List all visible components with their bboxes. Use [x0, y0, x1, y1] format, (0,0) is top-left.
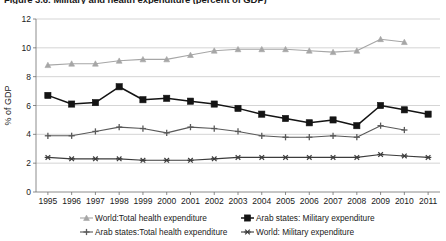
x-axis-labels: 1995199619971998199920002001200220032004… [38, 196, 437, 206]
legend-item-label: Arab states: Military expenditure [256, 213, 375, 223]
data-point-marker [330, 117, 336, 123]
data-point-marker [68, 157, 74, 162]
x-tick-label: 1998 [110, 196, 129, 206]
y-tick-label: 6 [26, 101, 31, 111]
data-point-marker [425, 155, 431, 160]
data-point-marker [92, 128, 98, 134]
y-tick-label: 8 [26, 72, 31, 82]
x-tick-label: 2005 [276, 196, 295, 206]
x-tick-label: 2003 [229, 196, 248, 206]
legend: World:Total health expenditureArab state… [80, 213, 375, 237]
data-point-marker [45, 155, 51, 160]
x-tick-label: 2002 [205, 196, 224, 206]
data-point-marker [306, 134, 312, 140]
data-point-marker [211, 125, 217, 131]
x-tick-label: 2004 [252, 196, 271, 206]
legend-item-0[interactable]: World:Total health expenditure [80, 213, 207, 223]
y-tick-label: 12 [22, 14, 32, 24]
data-point-marker [164, 95, 170, 101]
x-tick-label: 1996 [62, 196, 81, 206]
y-axis-labels: 024681012 [22, 14, 32, 197]
data-point-marker [306, 155, 312, 160]
x-tick-label: 2006 [300, 196, 319, 206]
data-point-marker [330, 133, 336, 139]
x-tick-label: 2009 [371, 196, 390, 206]
series-line [48, 126, 404, 138]
x-tick-label: 2008 [347, 196, 366, 206]
x-tick-label: 2000 [157, 196, 176, 206]
data-point-marker [187, 158, 193, 163]
data-point-marker [69, 101, 75, 107]
y-tick-label: 4 [26, 129, 31, 139]
legend-item-label: World: Military expenditure [256, 227, 354, 237]
data-point-marker [354, 155, 360, 160]
data-point-marker [425, 111, 431, 117]
legend-item-3[interactable]: World: Military expenditure [241, 227, 354, 237]
data-point-marker [140, 97, 146, 103]
data-point-marker [116, 124, 122, 130]
x-tick-label: 2010 [395, 196, 414, 206]
data-point-marker [45, 133, 51, 139]
y-tick-label: 10 [22, 43, 32, 53]
data-point-marker [401, 107, 407, 113]
data-point-marker [187, 124, 193, 130]
data-point-marker [354, 134, 360, 140]
series-group [45, 36, 432, 162]
y-axis-title-text: % of GDP [3, 85, 13, 125]
data-point-marker [306, 120, 312, 126]
data-point-marker [45, 92, 51, 98]
data-point-marker [354, 123, 360, 129]
data-point-marker [244, 230, 250, 235]
series-0 [45, 36, 407, 67]
data-point-marker [235, 105, 241, 111]
x-tick-label: 2001 [181, 196, 200, 206]
chart-canvas: 024681012 199519961997199819992000200120… [0, 0, 446, 241]
x-tick-label: 1997 [86, 196, 105, 206]
data-point-marker [116, 157, 122, 162]
data-point-marker [282, 134, 288, 140]
legend-item-label: Arab states:Total health expenditure [95, 227, 228, 237]
data-point-marker [377, 123, 383, 129]
y-axis-title: % of GDP [3, 85, 13, 125]
data-point-marker [211, 101, 217, 107]
legend-item-label: World:Total health expenditure [95, 213, 207, 223]
legend-item-1[interactable]: Arab states: Military expenditure [241, 213, 375, 223]
data-point-marker [282, 115, 288, 121]
data-point-marker [235, 155, 241, 160]
data-point-marker [140, 158, 146, 163]
data-point-marker [259, 111, 265, 117]
data-point-marker [92, 100, 98, 106]
data-point-marker [235, 128, 241, 134]
data-point-marker [92, 157, 98, 162]
data-point-marker [377, 102, 383, 108]
legend-item-2[interactable]: Arab states:Total health expenditure [80, 227, 228, 237]
data-point-marker [164, 158, 170, 163]
y-tick-label: 0 [26, 187, 31, 197]
figure-container: Figure 3.6: Military and health expendit… [0, 0, 446, 241]
data-point-marker [377, 152, 383, 157]
series-line [48, 39, 404, 65]
data-point-marker [69, 133, 75, 139]
data-point-marker [259, 133, 265, 139]
data-point-marker [211, 157, 217, 162]
data-point-marker [140, 125, 146, 131]
x-tick-label: 2011 [419, 196, 438, 206]
data-point-marker [164, 130, 170, 136]
data-point-marker [83, 229, 89, 235]
data-point-marker [282, 155, 288, 160]
data-point-marker [401, 154, 407, 159]
data-point-marker [330, 155, 336, 160]
data-point-marker [187, 98, 193, 104]
y-tick-label: 2 [26, 158, 31, 168]
x-tick-label: 2007 [324, 196, 343, 206]
data-point-marker [259, 155, 265, 160]
data-point-marker [116, 84, 122, 90]
series-3 [45, 152, 432, 162]
x-tick-label: 1995 [38, 196, 57, 206]
data-point-marker [244, 215, 250, 221]
data-point-marker [401, 127, 407, 133]
x-tick-label: 1999 [133, 196, 152, 206]
series-1 [45, 84, 431, 129]
